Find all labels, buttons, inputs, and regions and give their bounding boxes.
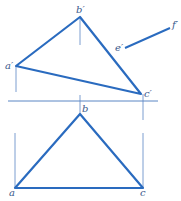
label-a-prime: a′ [5,60,14,71]
line-e-f-front [125,28,170,48]
front-view-triangle [16,17,141,94]
label-f-prime: f′ [171,19,179,30]
label-c-prime: c′ [144,88,153,99]
label-e-prime: e′ [115,42,124,53]
label-b: b [82,103,88,114]
projection-diagram: b′ a′ c′ e′ f′ b a c [0,0,181,201]
label-c: c [140,187,146,198]
top-view-triangle [15,114,143,188]
label-b-prime: b′ [76,4,85,15]
label-a: a [9,187,15,198]
